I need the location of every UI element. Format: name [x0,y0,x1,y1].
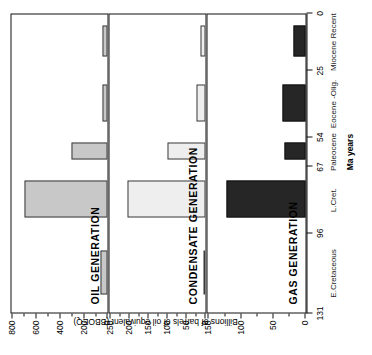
bar-gas-miocene-recent [293,25,305,56]
bar-oil-miocene-recent [102,25,107,56]
value-tick-label: 400 [54,320,64,334]
epoch-label-e-cretaceous: E.Cretaceous [328,249,337,297]
value-tick [147,313,148,318]
category-axis-line [306,13,307,313]
panel-condensate: CONDENSATE GENERATION [108,13,206,313]
category-axis: 131966754250E.CretaceousL.Cret.Paleocene… [306,13,366,313]
value-tick [71,313,72,316]
value-tick [204,313,205,318]
value-tick [47,313,48,316]
value-tick [83,313,84,318]
panel-title-gas: GAS GENERATION [286,201,298,304]
value-tick [240,313,241,318]
bar-condensate-eocene-olig [196,84,206,121]
plot-area-gas: GAS GENERATION [207,14,305,312]
epoch-label-paleocene: Paleocene [328,133,337,171]
bar-oil-eocene-olig [102,84,107,121]
bar-condensate-e-cretaceous [203,250,205,294]
plot-area-condensate: CONDENSATE GENERATION [109,14,205,312]
value-tick-label: 200 [78,320,88,334]
value-tick [207,313,208,318]
panel-oil: OIL GENERATION [10,13,108,313]
value-axis-condensate: 050100150200250 [108,313,206,355]
value-tick [185,313,186,318]
value-axis-oil: 0200400600800 [10,313,108,355]
epoch-label-l-cret: L.Cret. [328,188,337,212]
value-tick [195,313,196,316]
time-tick-label: 67 [314,162,324,171]
value-tick [304,313,305,318]
value-tick-label: 50 [180,320,190,329]
value-tick [176,313,177,316]
value-tick [11,313,12,318]
panel-title-condensate: CONDENSATE GENERATION [186,147,198,304]
value-tick [272,313,273,318]
time-tick [306,312,312,313]
time-tick [306,12,312,13]
value-tick [35,313,36,318]
value-tick-label: 250 [104,320,114,334]
value-tick [138,313,139,316]
bar-condensate-miocene-recent [200,25,205,56]
panel-gas: GAS GENERATION [206,13,306,313]
time-tick-label: 54 [314,132,324,141]
plot-area-oil: OIL GENERATION [11,14,107,312]
value-tick [109,313,110,318]
value-tick [256,313,257,316]
epoch-label-eocene-olig: Eocene -Olig. [328,79,337,127]
time-tick [306,232,312,233]
value-tick-label: 100 [235,320,245,334]
rotated-figure-wrapper: Billions of barrels of oil equivalent (B… [0,0,372,355]
generation-chart-figure: Billions of barrels of oil equivalent (B… [0,0,372,355]
bar-oil-paleocene [71,142,107,158]
value-tick-label: 100 [161,320,171,334]
bar-gas-eocene-olig [282,84,305,121]
time-tick-label: 131 [314,306,324,320]
time-tick-label: 0 [314,11,324,16]
value-tick [128,313,129,318]
value-tick-label: 200 [123,320,133,334]
value-tick [288,313,289,316]
value-tick [95,313,96,316]
time-tick [306,165,312,166]
value-tick-label: 600 [30,320,40,334]
value-tick [106,313,107,318]
bar-gas-paleocene [284,142,305,158]
time-tick [306,69,312,70]
epoch-label-miocene-recent: Miocene Recent [328,13,337,71]
value-tick [119,313,120,316]
panel-title-oil: OIL GENERATION [88,206,100,304]
time-tick-label: 25 [314,66,324,75]
value-tick-label: 800 [6,320,16,334]
bar-oil-e-cretaceous [100,250,107,294]
value-axis-gas: 050100150 [206,313,306,355]
value-tick-label: 50 [267,320,277,329]
time-tick [306,136,312,137]
value-tick [23,313,24,316]
value-tick [224,313,225,316]
category-axis-title: Ma years [344,133,354,169]
value-tick [166,313,167,318]
value-tick-label: 150 [202,320,212,334]
time-tick-label: 96 [314,228,324,237]
panel-stack: OIL GENERATION CONDENSATE GENERATION GAS… [10,13,306,313]
value-tick-label: 150 [142,320,152,334]
value-tick [157,313,158,316]
value-tick-label: 0 [299,320,309,325]
value-tick [59,313,60,318]
